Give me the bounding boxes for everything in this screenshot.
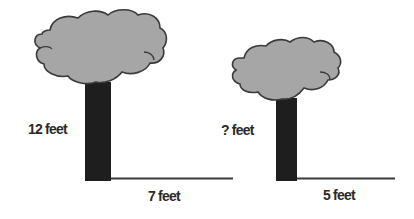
tree-1-trunk	[85, 82, 111, 181]
tree-2-shadow-label: 5 feet	[323, 187, 355, 203]
tree-1-height-label: 12 feet	[28, 121, 67, 137]
tree-2-height-label: ? feet	[221, 122, 254, 138]
tree-1-canopy	[35, 10, 167, 84]
tree-2	[233, 38, 395, 182]
tree-1-shadow-label: 7 feet	[148, 188, 180, 204]
tree-2-trunk	[276, 98, 297, 181]
tree-2-canopy	[233, 38, 341, 101]
tree-1	[35, 10, 233, 181]
